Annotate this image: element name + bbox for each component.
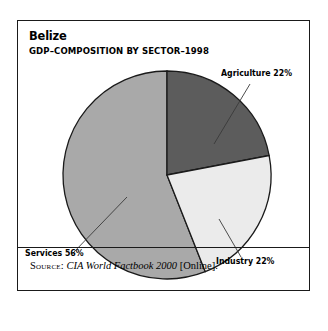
source-line: Source: CIA World Factbook 2000 [Online]… (30, 260, 218, 271)
slice-label-agriculture: Agriculture 22% (221, 68, 292, 78)
slice-label-industry: Industry 22% (216, 256, 274, 266)
chart-panel: Belize GDP–COMPOSITION BY SECTOR–1998 Ag… (17, 20, 310, 291)
slice-label-services: Services 56% (25, 248, 84, 258)
source-label: Source: (30, 260, 64, 271)
source-title: CIA World Factbook 2000 (67, 260, 178, 271)
footer-divider (18, 247, 309, 248)
figure-root: Belize GDP–COMPOSITION BY SECTOR–1998 Ag… (0, 0, 328, 331)
source-suffix: [Online]. (180, 260, 218, 271)
